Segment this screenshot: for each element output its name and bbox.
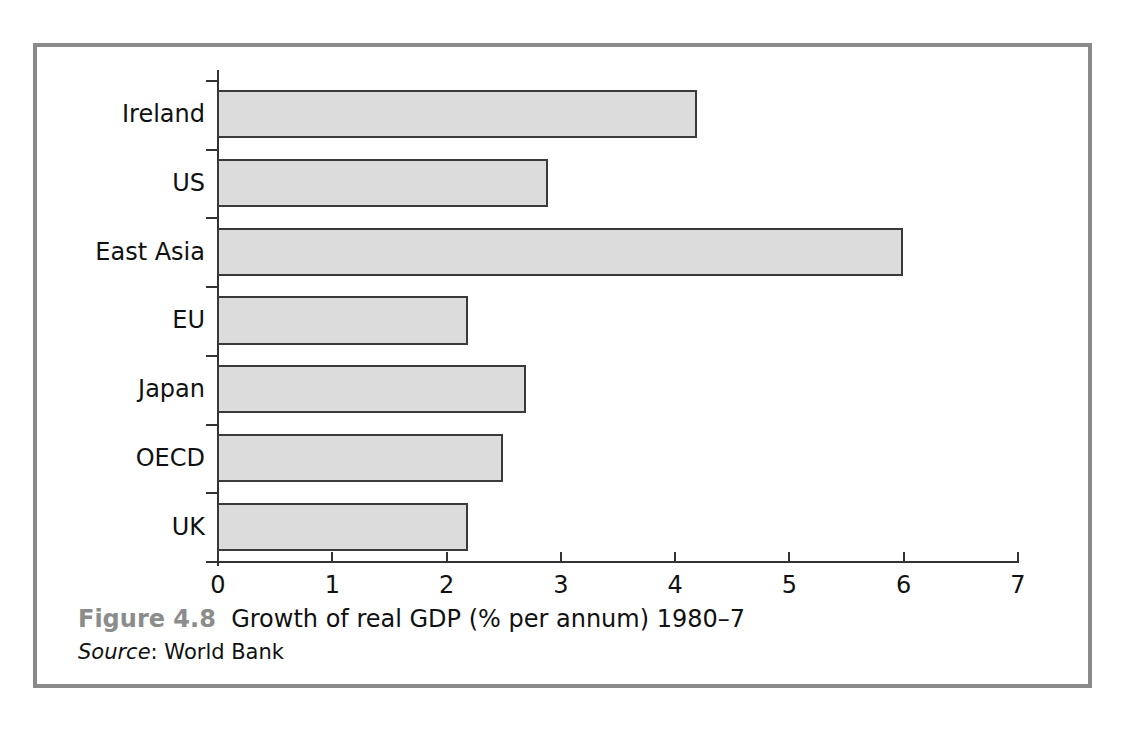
y-axis-tick [206, 424, 219, 426]
figure-caption-title: Growth of real GDP (% per annum) 1980–7 [231, 605, 745, 633]
x-axis-tick [217, 552, 219, 563]
y-axis-tick [206, 217, 219, 219]
bar [217, 228, 903, 276]
bar [217, 296, 468, 344]
x-axis-tick [446, 552, 448, 563]
x-axis-tick-label: 1 [312, 571, 352, 599]
source-label: Source [78, 640, 151, 664]
figure-frame: 01234567 IrelandUSEast AsiaEUJapanOECDUK… [33, 43, 1092, 688]
bar-row: East Asia [217, 228, 1017, 276]
figure-caption-block: Figure 4.8 Growth of real GDP (% per ann… [78, 603, 1038, 668]
y-axis-tick [206, 286, 219, 288]
x-axis-tick [903, 552, 905, 563]
x-axis-tick [788, 552, 790, 563]
chart-plot: 01234567 IrelandUSEast AsiaEUJapanOECDUK [217, 80, 1017, 561]
source-value: World Bank [164, 640, 284, 664]
bar [217, 434, 503, 482]
category-label: UK [0, 515, 205, 539]
y-axis-tick [206, 80, 219, 82]
bar-row: Ireland [217, 90, 1017, 138]
figure-caption: Figure 4.8 Growth of real GDP (% per ann… [78, 603, 1038, 635]
category-label: Ireland [0, 102, 205, 126]
category-label: US [0, 171, 205, 195]
bar-row: EU [217, 296, 1017, 344]
bar-row: OECD [217, 434, 1017, 482]
x-axis-tick-label: 4 [655, 571, 695, 599]
x-axis-tick-label: 5 [769, 571, 809, 599]
x-axis-tick [1017, 552, 1019, 563]
x-axis-tick [674, 552, 676, 563]
x-axis-tick-label: 2 [427, 571, 467, 599]
category-label: Japan [0, 377, 205, 401]
y-axis-tick [206, 355, 219, 357]
bar [217, 159, 548, 207]
y-axis-tick [206, 492, 219, 494]
bar-row: US [217, 159, 1017, 207]
bar [217, 365, 526, 413]
y-axis-tick [206, 149, 219, 151]
figure-source: Source: World Bank [78, 637, 1038, 667]
bar-row: Japan [217, 365, 1017, 413]
bar [217, 503, 468, 551]
category-label: East Asia [0, 240, 205, 264]
category-label: OECD [0, 446, 205, 470]
x-axis-tick-label: 3 [541, 571, 581, 599]
source-separator: : [151, 640, 165, 664]
bar [217, 90, 697, 138]
figure-number: Figure 4.8 [78, 605, 216, 633]
x-axis-tick [331, 552, 333, 563]
x-axis-tick-label: 7 [998, 571, 1038, 599]
x-axis-tick-label: 0 [198, 571, 238, 599]
category-label: EU [0, 308, 205, 332]
chart-plot-area: 01234567 IrelandUSEast AsiaEUJapanOECDUK [37, 47, 1088, 577]
bar-row: UK [217, 503, 1017, 551]
x-axis-tick-label: 6 [884, 571, 924, 599]
x-axis-tick [560, 552, 562, 563]
x-axis-line [217, 561, 1017, 563]
